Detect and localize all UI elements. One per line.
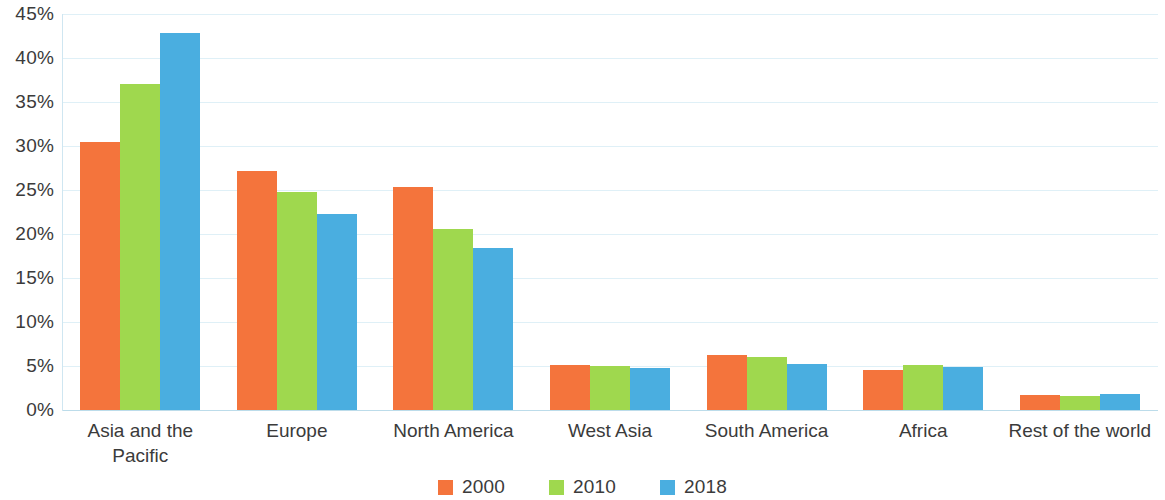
bar-2010[interactable]	[277, 192, 317, 410]
category-label-line: Africa	[849, 418, 998, 443]
legend-swatch-icon	[438, 480, 453, 495]
y-axis-tick-labels: 45%40%35%30%25%20%15%10%5%0%	[0, 0, 54, 500]
legend-swatch-icon	[549, 480, 564, 495]
category-label-line: West Asia	[536, 418, 685, 443]
y-axis-tick-label: 45%	[15, 3, 54, 25]
bar-group	[1001, 14, 1158, 410]
bar-2000[interactable]	[863, 370, 903, 410]
bar-2000[interactable]	[393, 187, 433, 410]
legend-swatch-icon	[660, 480, 675, 495]
legend-label: 2000	[462, 476, 505, 498]
bar-2010[interactable]	[590, 366, 630, 410]
bar-2018[interactable]	[473, 248, 513, 410]
y-axis-tick-label: 35%	[15, 91, 54, 113]
gridline	[62, 410, 1158, 411]
bar-2000[interactable]	[707, 355, 747, 410]
x-axis-category-label: South America	[688, 418, 845, 468]
x-axis-category-label: West Asia	[532, 418, 689, 468]
bar-2018[interactable]	[160, 33, 200, 410]
bar-group	[845, 14, 1002, 410]
y-axis-tick-label: 15%	[15, 267, 54, 289]
bar-groups	[62, 14, 1158, 410]
y-axis-tick-label: 10%	[15, 311, 54, 333]
x-axis-category-label: Asia and thePacific	[62, 418, 219, 468]
x-axis-category-label: North America	[375, 418, 532, 468]
bar-2010[interactable]	[1060, 396, 1100, 410]
bar-2000[interactable]	[237, 171, 277, 410]
bar-2018[interactable]	[787, 364, 827, 410]
bar-2010[interactable]	[903, 365, 943, 410]
category-label-line: Rest of the world	[1005, 418, 1154, 443]
bar-2018[interactable]	[630, 368, 670, 410]
y-axis-tick-label: 40%	[15, 47, 54, 69]
bar-2018[interactable]	[317, 214, 357, 410]
bar-2010[interactable]	[747, 357, 787, 410]
y-axis-tick-label: 5%	[26, 355, 54, 377]
legend-item[interactable]: 2000	[438, 476, 505, 498]
category-label-line: Europe	[223, 418, 372, 443]
bar-group	[62, 14, 219, 410]
bar-2010[interactable]	[120, 84, 160, 410]
legend-item[interactable]: 2018	[660, 476, 727, 498]
x-axis-category-label: Rest of the world	[1001, 418, 1158, 468]
y-axis-tick-label: 0%	[26, 399, 54, 421]
y-axis-tick-label: 30%	[15, 135, 54, 157]
y-axis-tick-label: 20%	[15, 223, 54, 245]
category-label-line: Asia and the	[66, 418, 215, 443]
x-axis-category-label: Africa	[845, 418, 1002, 468]
bar-group	[532, 14, 689, 410]
category-label-line: Pacific	[66, 443, 215, 468]
bar-2018[interactable]	[1100, 394, 1140, 410]
chart-legend: 200020102018	[0, 476, 1165, 498]
legend-label: 2010	[573, 476, 616, 498]
bar-2000[interactable]	[1020, 395, 1060, 410]
bar-2018[interactable]	[943, 367, 983, 410]
category-label-line: South America	[692, 418, 841, 443]
bar-chart: 45%40%35%30%25%20%15%10%5%0% Asia and th…	[0, 0, 1165, 500]
category-label-line: North America	[379, 418, 528, 443]
y-axis-tick-label: 25%	[15, 179, 54, 201]
bar-group	[688, 14, 845, 410]
legend-item[interactable]: 2010	[549, 476, 616, 498]
bar-group	[375, 14, 532, 410]
legend-label: 2018	[684, 476, 727, 498]
bar-2000[interactable]	[80, 142, 120, 410]
bar-group	[219, 14, 376, 410]
x-axis-category-labels: Asia and thePacificEuropeNorth AmericaWe…	[62, 418, 1158, 468]
bar-2000[interactable]	[550, 365, 590, 410]
x-axis-category-label: Europe	[219, 418, 376, 468]
bar-2010[interactable]	[433, 229, 473, 410]
